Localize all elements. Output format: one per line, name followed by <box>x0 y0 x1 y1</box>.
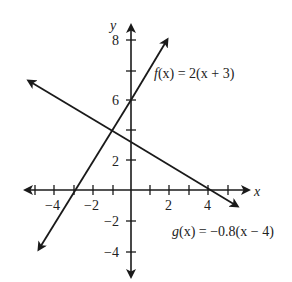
x-tick-label: −2 <box>84 198 99 213</box>
y-axis-label: y <box>108 18 117 33</box>
coordinate-plane: y x −4 −2 2 4 8 6 2 −2 −4 f(x) = 2(x + 3… <box>0 0 292 282</box>
x-tick-label: 2 <box>165 198 172 213</box>
g-equation-label: g(x) = −0.8(x − 4) <box>172 224 274 240</box>
y-tick-label: 6 <box>112 93 119 108</box>
y-tick-label: −4 <box>104 245 119 260</box>
y-axis <box>126 26 136 276</box>
y-tick-label: 8 <box>112 33 119 48</box>
x-tick-label: −4 <box>45 198 60 213</box>
line-g-right <box>131 142 237 206</box>
x-axis-label: x <box>253 184 261 199</box>
f-equation-label: f(x) = 2(x + 3) <box>154 66 235 82</box>
x-tick-label: 4 <box>204 198 211 213</box>
y-tick-label: 2 <box>112 154 119 169</box>
line-g <box>29 81 131 142</box>
y-tick-label: −2 <box>104 214 119 229</box>
